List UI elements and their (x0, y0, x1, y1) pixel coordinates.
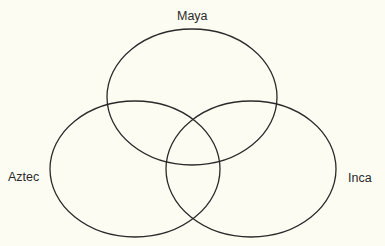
inca-label: Inca (348, 172, 372, 185)
inca-set-ellipse (166, 101, 336, 237)
maya-label: Maya (177, 10, 208, 23)
aztec-set-ellipse (50, 101, 220, 237)
maya-set-ellipse (107, 29, 277, 165)
venn-diagram: Maya Aztec Inca (0, 0, 385, 246)
venn-ellipses (0, 0, 385, 246)
aztec-label: Aztec (8, 171, 39, 184)
